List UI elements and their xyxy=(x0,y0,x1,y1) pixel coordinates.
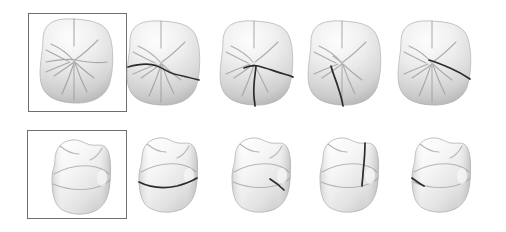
tooth-buccal-5 xyxy=(393,116,504,232)
buccal-stage-4[interactable]: vertical distal crack xyxy=(303,116,403,232)
occlusal-stage-2[interactable]: mesio-distal crack xyxy=(123,0,223,116)
buccal-highlight xyxy=(277,168,287,184)
buccal-stage-5[interactable]: mesial crack xyxy=(393,116,493,232)
tooth-body xyxy=(308,21,381,105)
tooth-body xyxy=(127,21,200,105)
buccal-highlight xyxy=(97,170,107,186)
buccal-highlight xyxy=(365,168,375,184)
occlusal-stage-1[interactable]: none xyxy=(10,0,110,116)
occlusal-view-row: none xyxy=(0,0,506,116)
occlusal-stage-5[interactable]: distal oblique crack xyxy=(393,0,493,116)
buccal-view-row: none xyxy=(0,116,506,232)
buccal-highlight xyxy=(457,168,467,184)
tooth-body xyxy=(220,21,293,105)
tooth-occlusal-1 xyxy=(10,0,140,116)
buccal-stage-3[interactable]: partial distal crack xyxy=(213,116,313,232)
buccal-stage-1[interactable]: none xyxy=(10,116,110,232)
tooth-body xyxy=(398,21,471,105)
occlusal-stage-4[interactable]: mesial vertical crack xyxy=(303,0,403,116)
tooth-buccal-1 xyxy=(10,116,140,232)
tooth-occlusal-5 xyxy=(393,0,504,116)
tooth-crack-figure: none xyxy=(0,0,506,232)
occlusal-stage-3[interactable]: branched crack xyxy=(213,0,313,116)
buccal-stage-2[interactable]: horizontal crack xyxy=(123,116,223,232)
